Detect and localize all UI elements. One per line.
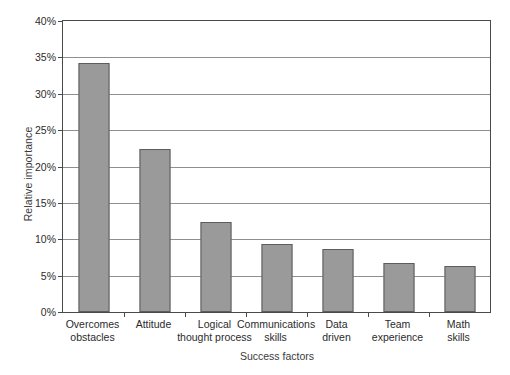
x-category-label: Mathskills — [420, 318, 497, 343]
x-category-label-line2: obstacles — [54, 331, 131, 344]
y-tick-label: 40% — [35, 15, 56, 27]
y-tick-label: 25% — [35, 124, 56, 136]
bar-slot — [368, 21, 429, 312]
bar[interactable] — [200, 222, 231, 312]
y-axis-title: Relative importance — [22, 99, 34, 249]
bar[interactable] — [383, 263, 414, 312]
x-category-label-line1: Logical — [198, 318, 231, 330]
bar-slot — [124, 21, 185, 312]
bar[interactable] — [322, 249, 353, 312]
bar-slot — [246, 21, 307, 312]
x-category-label-line1: Team — [385, 318, 411, 330]
y-tick-label: 30% — [35, 88, 56, 100]
x-category-label-line1: Attitude — [136, 318, 172, 330]
bars-layer — [63, 21, 490, 312]
x-category-label-line1: Overcomes — [66, 318, 120, 330]
x-tick-mark — [307, 312, 308, 317]
y-tick-label: 5% — [41, 270, 56, 282]
bar-slot — [429, 21, 490, 312]
x-axis-category-labels: OvercomesobstaclesAttitudeLogicalthought… — [62, 318, 491, 348]
bar-slot — [307, 21, 368, 312]
x-tick-mark — [124, 312, 125, 317]
bar[interactable] — [139, 149, 170, 312]
x-tick-mark — [368, 312, 369, 317]
x-category-label-line2: skills — [420, 331, 497, 344]
bar[interactable] — [78, 63, 109, 312]
x-tick-mark — [246, 312, 247, 317]
bar-chart-figure: Relative importance 0%5%10%15%20%25%30%3… — [0, 0, 510, 375]
y-tick-mark — [58, 312, 63, 313]
x-category-label-line1: Data — [325, 318, 347, 330]
bar-slot — [185, 21, 246, 312]
x-axis-title: Success factors — [62, 350, 492, 362]
bar-slot — [63, 21, 124, 312]
y-tick-label: 0% — [41, 306, 56, 318]
y-tick-label: 20% — [35, 161, 56, 173]
x-category-label-line1: Math — [447, 318, 470, 330]
y-tick-label: 10% — [35, 233, 56, 245]
plot-area: 0%5%10%15%20%25%30%35%40% — [62, 20, 491, 313]
bar[interactable] — [444, 266, 475, 312]
x-tick-mark — [185, 312, 186, 317]
y-tick-label: 35% — [35, 51, 56, 63]
y-tick-label: 15% — [35, 197, 56, 209]
bar[interactable] — [261, 244, 292, 312]
x-tick-mark — [429, 312, 430, 317]
